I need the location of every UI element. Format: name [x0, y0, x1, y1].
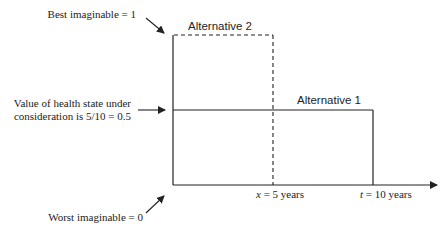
worst-label: Worst imaginable = 0: [48, 211, 143, 223]
alternative-2-label: Alternative 2: [188, 20, 252, 32]
t-tick-label: t = 10 years: [360, 188, 412, 200]
t-value: = 10 years: [363, 188, 412, 200]
best-label: Best imaginable = 1: [48, 8, 136, 20]
value-label-line2: consideration is 5/10 = 0.5: [14, 110, 132, 122]
worst-arrow-icon: [146, 196, 164, 213]
x-tick-label: x = 5 years: [255, 188, 304, 200]
x-value: = 5 years: [261, 188, 304, 200]
alternative-1-label: Alternative 1: [297, 94, 361, 106]
best-arrow-icon: [146, 18, 164, 33]
value-label-line1: Value of health state under: [14, 97, 132, 109]
time-tradeoff-diagram: Best imaginable = 1 Value of health stat…: [0, 0, 447, 238]
